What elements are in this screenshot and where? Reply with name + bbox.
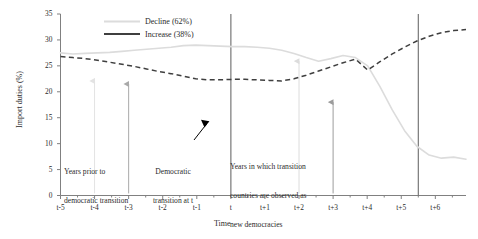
y-tick-label: 0 [35, 191, 53, 200]
y-axis-ticks [57, 14, 61, 196]
annotation-years-prior-line-2: democratic transition [64, 196, 128, 206]
series-line-increase [61, 30, 467, 81]
legend-label-decline: Decline (62%) [145, 17, 192, 26]
x-axis-title: Time [214, 219, 231, 228]
y-axis-title: Import duties (%) [15, 55, 24, 145]
x-tick-label: t+3 [317, 203, 349, 212]
annotation-new-democracies: Years in which transition countries are … [230, 143, 307, 239]
annotation-years-prior-line-1: Years prior to [64, 167, 128, 177]
x-tick-label: t+4 [351, 203, 383, 212]
annotation-new-democracies-line-2: countries are observed as [230, 191, 307, 201]
y-tick-label: 20 [35, 87, 53, 96]
annotation-democratic-transition: Democratic transition at t [153, 148, 193, 225]
y-tick-label: 5 [35, 165, 53, 174]
annotation-new-democracies-line-1: Years in which transition [230, 162, 307, 172]
annotation-transition-line-2: transition at t [153, 196, 193, 206]
annotation-new-democracies-line-3: new democracies [230, 220, 307, 230]
legend-label-increase: Increase (38%) [145, 30, 194, 39]
chart-figure: Import duties (%) 05101520253035 t-5t-4t… [0, 0, 478, 239]
y-tick-label: 35 [35, 9, 53, 18]
y-tick-label: 30 [35, 35, 53, 44]
y-tick-label: 25 [35, 61, 53, 70]
annotation-transition-line-1: Democratic [153, 167, 193, 177]
transition-callout-arrow [194, 124, 207, 140]
x-tick-label: t+5 [385, 203, 417, 212]
y-tick-label: 10 [35, 139, 53, 148]
x-tick-label: t+6 [419, 203, 451, 212]
annotation-years-prior: Years prior to democratic transition [64, 148, 128, 225]
y-tick-label: 15 [35, 113, 53, 122]
